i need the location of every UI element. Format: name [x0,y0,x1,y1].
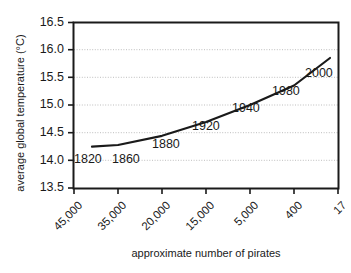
ytick-label-13.5: 13.5 [22,180,64,194]
point-label-1860: 1860 [112,152,140,166]
temperature-series-line [92,58,330,147]
point-label-1880: 1880 [152,137,180,151]
y-axis-title-wrap: average global temperature (°C) [12,13,28,213]
point-label-1980: 1980 [272,84,300,98]
gridlines [74,50,338,161]
ytick-label-14.5: 14.5 [22,125,64,139]
ytick-label-14.0: 14.0 [22,153,64,167]
y-axis-title: average global temperature (°C) [14,34,26,191]
ytick-label-16.5: 16.5 [22,15,64,29]
ytick-label-15.5: 15.5 [22,70,64,84]
pirates-vs-temperature-chart: 16.5 16.0 15.5 15.0 14.5 14.0 13.5 45,00… [0,0,351,273]
x-axis-title-wrap: approximate number of pirates [73,243,339,261]
point-label-1820: 1820 [74,152,102,166]
point-label-1920: 1920 [192,119,220,133]
x-axis-title: approximate number of pirates [131,247,280,259]
ytick-label-15.0: 15.0 [22,97,64,111]
point-label-1940: 1940 [232,101,260,115]
point-label-2000: 2000 [305,66,333,80]
ytick-label-16.0: 16.0 [22,42,64,56]
